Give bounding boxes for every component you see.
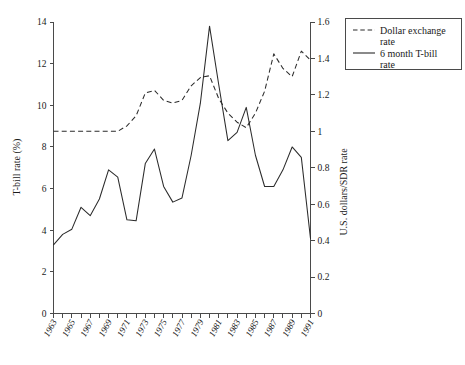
dual-axis-line-chart: 02468101214 00.20.40.60.811.21.41.6 1963… [0, 0, 465, 365]
left-axis-title: T-bill rate (%) [11, 139, 23, 196]
left-tick-label: 2 [42, 267, 47, 277]
right-tick-label: 0.6 [318, 200, 330, 210]
legend-label-dollar-exchange-rate-line1: Dollar exchange [380, 25, 446, 36]
right-tick-label: 0.4 [318, 236, 330, 246]
chart-legend: Dollar exchange rate 6 month T-bill rate [346, 19, 462, 71]
legend-label-t-bill-rate-line1: 6 month T-bill [380, 48, 437, 59]
left-tick-label: 4 [42, 226, 47, 236]
chart-figure: 02468101214 00.20.40.60.811.21.41.6 1963… [0, 0, 465, 365]
right-tick-label: 0.8 [318, 163, 330, 173]
left-tick-label: 14 [37, 17, 47, 27]
right-tick-label: 1.2 [318, 90, 330, 100]
right-tick-label: 0.2 [318, 272, 330, 282]
legend-label-dollar-exchange-rate-line2: rate [380, 36, 396, 47]
left-tick-label: 10 [37, 101, 47, 111]
left-tick-label: 0 [42, 309, 47, 319]
right-tick-label: 1.4 [318, 54, 330, 64]
left-tick-label: 6 [42, 184, 47, 194]
right-tick-label: 1.6 [318, 17, 330, 27]
right-tick-label: 1 [318, 127, 323, 137]
left-tick-label: 8 [42, 142, 47, 152]
right-tick-label: 0 [318, 309, 323, 319]
right-axis-title: U.S. dollars/SDR rate [338, 148, 349, 236]
left-tick-label: 12 [37, 59, 47, 69]
legend-label-t-bill-rate-line2: rate [380, 59, 396, 70]
